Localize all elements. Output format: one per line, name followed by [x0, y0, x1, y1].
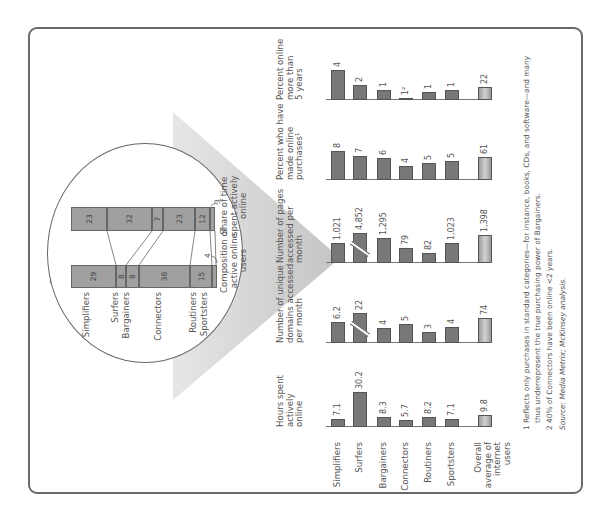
- value-purchases-simplifiers: 8: [331, 143, 345, 148]
- bar-hours-surfers: [353, 392, 367, 427]
- value-purchases-surfers: 7: [353, 148, 367, 153]
- bar-domains-overall: [478, 318, 492, 343]
- bar-hours-connectors: [399, 420, 413, 427]
- header-purchases: Percent who have made online purchases¹: [276, 103, 305, 180]
- value-hours-simplifiers: 7.1: [331, 403, 345, 416]
- bar-domains-bargainers: [377, 328, 391, 343]
- bar-pages-connectors: [399, 248, 413, 263]
- value-hours-overall: 9.8: [478, 399, 492, 412]
- value-hours-connectors: 5.7: [399, 404, 413, 417]
- category-sportsters: Sportsters: [447, 442, 457, 492]
- header-domains: Number of unique domains accessed per mo…: [276, 264, 305, 343]
- value-purchases-routiners: 5: [422, 155, 436, 160]
- bar-years-sportsters: [445, 90, 459, 100]
- bar-domains-simplifiers: [331, 322, 345, 343]
- value-domains-sportsters: 4: [445, 319, 459, 324]
- footnote-2: 2 40% of Connectors have been online <2 …: [545, 248, 554, 430]
- value-purchases-bargainers: 6: [377, 150, 391, 155]
- header-years: Percent online more than 5 years: [276, 39, 305, 100]
- value-years-simplifiers: 4: [331, 62, 345, 67]
- composition-label: Composition of active online users: [220, 228, 249, 293]
- value-domains-connectors: 5: [399, 316, 413, 321]
- bar-years-surfers: [353, 85, 367, 100]
- bar-pages-routiners: [422, 253, 436, 263]
- value-domains-routiners: 3: [422, 324, 436, 329]
- bar-purchases-routiners: [422, 163, 436, 180]
- bar-pages-simplifiers: [331, 243, 345, 263]
- header-hours: Hours spent actively online: [276, 375, 305, 427]
- bar-purchases-bargainers: [377, 158, 391, 180]
- footnote-1-line-2: thus underrepresent the true purchasing …: [533, 193, 542, 423]
- value-purchases-overall: 61: [478, 144, 492, 154]
- value-years-routiners: 1: [422, 84, 436, 89]
- category-surfers: Surfers: [355, 442, 365, 492]
- category-routiners: Routiners: [424, 442, 434, 492]
- bar-hours-simplifiers: [331, 419, 345, 427]
- bar-purchases-sportsters: [445, 161, 459, 180]
- category-connectors: Connectors: [401, 442, 411, 492]
- value-pages-simplifiers: 1,021: [331, 217, 345, 240]
- bar-domains-routiners: [422, 332, 436, 343]
- value-years-bargainers: 1: [377, 82, 391, 87]
- segment-connector-lines: [28, 27, 583, 494]
- composition-callout-sportsters: 4: [201, 253, 215, 258]
- value-purchases-connectors: 4: [399, 158, 413, 163]
- footnote-1-line-1: 1 Reflects only purchases in standard ca…: [522, 56, 531, 430]
- bar-hours-sportsters: [445, 419, 459, 427]
- value-pages-connectors: 79: [399, 235, 413, 245]
- bar-years-connectors: [399, 98, 413, 100]
- category-simplifiers: Simplifiers: [333, 442, 343, 492]
- value-years-surfers: 2: [353, 77, 367, 82]
- bar-years-routiners: [422, 92, 436, 100]
- value-domains-surfers: 22: [353, 300, 367, 310]
- value-domains-simplifiers: 6.2: [331, 306, 345, 319]
- value-hours-surfers: 30.2: [353, 371, 367, 389]
- value-pages-surfers: 4,852: [353, 207, 367, 230]
- value-domains-bargainers: 4: [377, 320, 391, 325]
- bar-domains-sportsters: [445, 327, 459, 343]
- bar-hours-bargainers: [377, 417, 391, 427]
- value-hours-bargainers: 8.3: [377, 401, 391, 414]
- source-note: Source: Media Metrix; McKinsey analysis.: [558, 278, 567, 430]
- value-hours-routiners: 8.2: [422, 401, 436, 414]
- bar-pages-bargainers: [377, 238, 391, 263]
- value-pages-sportsters: 1,023: [445, 217, 459, 240]
- value-pages-bargainers: 1,295: [377, 212, 391, 235]
- value-years-connectors: 1²: [399, 87, 413, 95]
- bar-purchases-connectors: [399, 166, 413, 180]
- share-label: Share of time spent actively online: [220, 176, 249, 236]
- bar-hours-overall: [478, 415, 492, 427]
- category-bargainers: Bargainers: [379, 442, 389, 492]
- bar-years-bargainers: [377, 90, 391, 100]
- bar-hours-routiners: [422, 417, 436, 427]
- value-hours-sportsters: 7.1: [445, 403, 459, 416]
- bar-purchases-simplifiers: [331, 151, 345, 180]
- bar-purchases-overall: [478, 157, 492, 180]
- bar-years-overall: [478, 87, 492, 100]
- rotated-figure: Percent Simplifiers Surfers Bargainers C…: [28, 27, 583, 494]
- bar-pages-sportsters: [445, 243, 459, 263]
- value-years-sportsters: 1: [445, 82, 459, 87]
- bar-purchases-surfers: [353, 156, 367, 180]
- value-pages-overall: 1,398: [478, 209, 492, 232]
- value-years-overall: 22: [478, 74, 492, 84]
- value-purchases-sportsters: 5: [445, 153, 459, 158]
- header-pages: Number of pages accessed per month: [276, 189, 305, 263]
- bar-domains-connectors: [399, 324, 413, 343]
- category-overall-average: Overall average of internet users: [474, 442, 512, 492]
- bar-years-simplifiers: [331, 70, 345, 100]
- value-domains-overall: 74: [478, 305, 492, 315]
- value-pages-routiners: 82: [422, 240, 436, 250]
- bar-pages-overall: [478, 235, 492, 263]
